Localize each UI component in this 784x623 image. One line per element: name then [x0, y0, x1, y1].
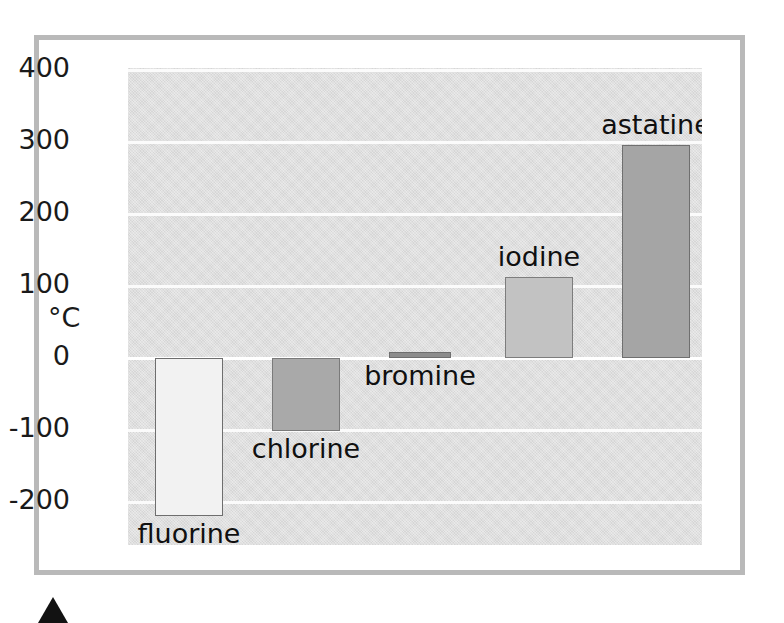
y-tick-label-400: 400: [0, 52, 70, 83]
bar-iodine: [505, 277, 573, 358]
bar-astatine: [622, 145, 690, 358]
bar-bromine: [389, 352, 451, 358]
bar-label-chlorine: chlorine: [212, 433, 400, 464]
y-tick-label-100: 100: [0, 268, 70, 299]
bar-label-astatine: astatine: [562, 109, 702, 140]
up-arrow-marker-icon: [38, 597, 68, 623]
bar-label-bromine: bromine: [329, 360, 511, 391]
gridline-100: [128, 285, 702, 288]
bar-label-fluorine: fluorine: [128, 518, 283, 545]
y-tick-label-0: 0: [0, 340, 70, 371]
y-tick-label--200: -200: [0, 484, 70, 515]
y-tick-label-300: 300: [0, 124, 70, 155]
plot-area: fluorinechlorinebromineiodineastatine: [128, 68, 702, 545]
y-tick-label--100: -100: [0, 412, 70, 443]
y-tick-label-200: 200: [0, 196, 70, 227]
gridline-200: [128, 213, 702, 216]
y-axis-unit-label: °C: [48, 302, 80, 333]
gridline-400: [128, 69, 702, 72]
gridline-300: [128, 141, 702, 144]
bar-label-iodine: iodine: [445, 241, 633, 272]
